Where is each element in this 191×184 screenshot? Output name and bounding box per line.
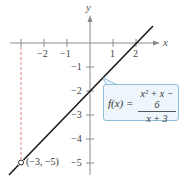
function-callout-box: f(x) = x² + x − 6 x + 3 — [103, 84, 179, 121]
y-tick-label: −2 — [71, 86, 82, 96]
hole-open-circle-icon — [19, 160, 24, 165]
y-axis-arrow-icon — [88, 15, 93, 22]
function-denominator: x + 3 — [138, 112, 176, 124]
x-axis-arrow-icon — [153, 41, 160, 46]
x-tick-label: 2 — [133, 49, 138, 59]
y-tick-label: −4 — [71, 134, 82, 144]
y-tick-label: −5 — [71, 158, 82, 168]
function-lhs: f(x) = — [108, 97, 133, 109]
hole-point-label: (−3, −5) — [26, 157, 59, 167]
x-axis-label: x — [163, 37, 168, 48]
graph-figure: x y −2 −1 1 2 −1 −2 −3 −4 −5 (−3, −5) f(… — [0, 0, 191, 184]
function-numerator: x² + x − 6 — [138, 88, 176, 112]
x-tick-label: −1 — [60, 49, 71, 59]
y-axis-label: y — [86, 2, 91, 13]
function-fraction: x² + x − 6 x + 3 — [138, 88, 176, 124]
y-tick-label: −3 — [71, 110, 82, 120]
x-tick-label: 1 — [110, 49, 115, 59]
x-tick-label: −2 — [37, 49, 48, 59]
function-line-left — [9, 165, 19, 175]
y-tick-label: −1 — [71, 62, 82, 72]
